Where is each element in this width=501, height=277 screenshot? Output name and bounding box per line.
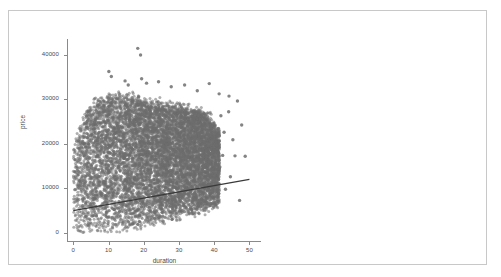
scatter-point <box>119 169 122 172</box>
scatter-point <box>203 141 206 144</box>
scatter-point <box>175 145 178 148</box>
scatter-point <box>169 123 172 126</box>
scatter-point <box>87 134 90 137</box>
scatter-point <box>104 194 107 197</box>
scatter-point <box>90 229 93 232</box>
scatter-point <box>172 181 175 184</box>
scatter-point <box>157 104 160 107</box>
scatter-point <box>200 182 203 185</box>
scatter-point <box>100 160 103 163</box>
scatter-point <box>161 118 164 121</box>
scatter-point <box>213 127 216 130</box>
scatter-point <box>154 206 157 209</box>
scatter-point <box>207 150 210 153</box>
scatter-point <box>146 155 149 158</box>
scatter-point <box>101 179 104 182</box>
scatter-point <box>100 107 103 110</box>
scatter-point <box>179 149 182 152</box>
scatter-point <box>90 137 93 140</box>
scatter-point <box>73 181 76 184</box>
scatter-point <box>181 211 184 214</box>
scatter-outlier-point <box>107 70 110 73</box>
scatter-point <box>82 200 85 203</box>
y-tick-mark <box>64 188 67 189</box>
scatter-point <box>78 138 81 141</box>
scatter-point <box>199 158 202 161</box>
scatter-point <box>98 171 101 174</box>
scatter-plot-svg <box>68 39 260 241</box>
scatter-point <box>167 181 170 184</box>
x-tick-mark <box>214 242 215 245</box>
scatter-point <box>191 197 194 200</box>
scatter-point <box>216 188 219 191</box>
scatter-point <box>184 186 187 189</box>
scatter-point <box>154 209 157 212</box>
scatter-point <box>132 143 135 146</box>
scatter-point <box>179 180 182 183</box>
scatter-point <box>131 221 134 224</box>
scatter-point <box>108 117 111 120</box>
x-tick-label: 10 <box>97 247 121 253</box>
scatter-point <box>169 153 172 156</box>
scatter-point <box>111 103 114 106</box>
scatter-point <box>146 200 149 203</box>
scatter-point <box>162 211 165 214</box>
scatter-point <box>173 172 176 175</box>
scatter-point <box>206 194 209 197</box>
scatter-point <box>81 204 84 207</box>
scatter-point <box>124 186 127 189</box>
scatter-point <box>171 114 174 117</box>
x-tick-label: 40 <box>202 247 226 253</box>
scatter-point <box>140 184 143 187</box>
scatter-point <box>113 165 116 168</box>
scatter-point <box>212 156 215 159</box>
scatter-point <box>169 145 172 148</box>
scatter-point <box>194 130 197 133</box>
scatter-point <box>143 163 146 166</box>
scatter-point <box>187 160 190 163</box>
scatter-point <box>120 161 123 164</box>
scatter-point <box>146 172 149 175</box>
scatter-point <box>178 207 181 210</box>
scatter-point <box>111 149 114 152</box>
scatter-point <box>144 129 147 132</box>
scatter-point <box>93 218 96 221</box>
scatter-outlier-point <box>196 89 199 92</box>
scatter-point <box>138 135 141 138</box>
scatter-point <box>76 217 79 220</box>
scatter-point <box>87 222 90 225</box>
scatter-point <box>193 146 196 149</box>
scatter-point <box>158 143 161 146</box>
scatter-point <box>104 161 107 164</box>
scatter-point <box>115 225 118 228</box>
scatter-point <box>131 106 134 109</box>
scatter-point <box>82 147 85 150</box>
scatter-point <box>110 206 113 209</box>
scatter-point <box>154 221 157 224</box>
scatter-point <box>109 101 112 104</box>
scatter-point <box>86 161 89 164</box>
scatter-point <box>196 143 199 146</box>
scatter-point <box>182 143 185 146</box>
scatter-point <box>84 122 87 125</box>
scatter-point <box>125 165 128 168</box>
scatter-point <box>102 111 105 114</box>
scatter-point <box>109 175 112 178</box>
scatter-point <box>158 187 161 190</box>
scatter-point <box>117 162 120 165</box>
scatter-point <box>145 212 148 215</box>
scatter-point <box>112 134 115 137</box>
scatter-outlier-point <box>227 94 230 97</box>
scatter-point <box>213 125 216 128</box>
scatter-point <box>203 199 206 202</box>
scatter-point <box>84 126 87 129</box>
scatter-point <box>76 191 79 194</box>
scatter-point <box>206 133 209 136</box>
scatter-point <box>182 103 185 106</box>
scatter-point <box>143 154 146 157</box>
scatter-point <box>92 197 95 200</box>
scatter-point <box>141 143 144 146</box>
scatter-point <box>168 210 171 213</box>
scatter-point <box>157 100 160 103</box>
scatter-point <box>157 135 160 138</box>
